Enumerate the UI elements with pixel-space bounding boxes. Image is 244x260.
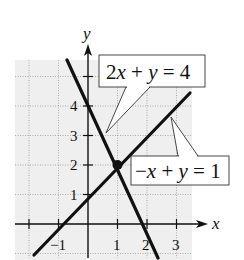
y-tick-label-2: 2 (70, 157, 78, 173)
y-tick-label-3: 3 (70, 128, 78, 144)
x-axis-label: x (211, 214, 220, 233)
y-tick-label-4: 4 (70, 98, 78, 114)
y-axis-label: y (81, 24, 91, 43)
x-tick-label-3: 3 (172, 237, 180, 253)
intersection-point (113, 160, 123, 170)
eq1-label: 2x + y = 4 (106, 60, 191, 84)
y-tick-label-1: 1 (70, 187, 78, 203)
x-tick-label-m1: −1 (50, 237, 66, 253)
chart-canvas: −1 1 2 3 1 2 3 4 x y 2x + y = 4 −x + y =… (0, 0, 244, 260)
x-tick-label-1: 1 (113, 237, 121, 253)
eq2-label: −x + y = 1 (135, 159, 221, 183)
